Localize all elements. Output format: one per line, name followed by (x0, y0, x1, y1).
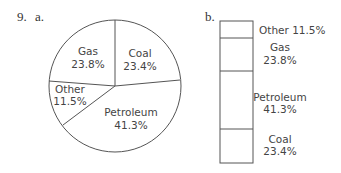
bar-label-coal-pct: 23.4% (263, 145, 296, 157)
pie-label-coal-pct: 23.4% (123, 60, 156, 72)
pie-label-gas-pct: 23.8% (71, 58, 104, 70)
bar-outline (220, 21, 253, 163)
bar-label-gas-pct: 23.8% (263, 54, 296, 66)
bar-label-other: Other 11.5% (259, 24, 326, 36)
pie-chart: Gas 23.8% Coal 23.4% Other 11.5% Petrole… (49, 20, 181, 152)
pie-label-coal-name: Coal (128, 47, 151, 59)
charts-canvas: Gas 23.8% Coal 23.4% Other 11.5% Petrole… (0, 0, 341, 173)
pie-label-petroleum-name: Petroleum (104, 106, 157, 118)
bar-label-petroleum-pct: 41.3% (263, 103, 296, 115)
pie-label-other-pct: 11.5% (53, 95, 86, 107)
bar-label-gas-name: Gas (270, 41, 290, 53)
stacked-bar-chart: Other 11.5% Gas 23.8% Petroleum 41.3% Co… (220, 21, 326, 163)
bar-label-petroleum-name: Petroleum (253, 91, 306, 103)
pie-label-petroleum-pct: 41.3% (114, 119, 147, 131)
pie-label-gas-name: Gas (78, 45, 98, 57)
bar-label-coal-name: Coal (268, 133, 291, 145)
pie-label-other-name: Other (55, 83, 85, 95)
